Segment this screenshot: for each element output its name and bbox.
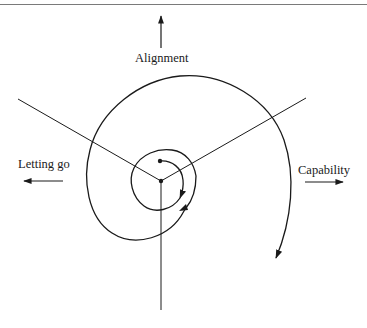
- spiral-outer-turn: [87, 76, 291, 258]
- label-alignment: Alignment: [135, 51, 188, 65]
- spiral-start-dot: [158, 159, 162, 163]
- spiral: [87, 76, 291, 258]
- label-letting-go: Letting go: [18, 157, 70, 171]
- radial-lines: [18, 98, 306, 310]
- center-dot: [159, 179, 163, 183]
- label-capability: Capability: [298, 163, 350, 177]
- spiral-mid-arrowhead-icon: [179, 204, 188, 211]
